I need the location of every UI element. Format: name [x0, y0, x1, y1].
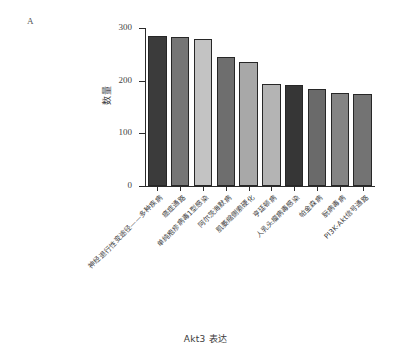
bar: [308, 89, 326, 186]
figure-panel-b: B Akt3 表达: [0, 300, 411, 351]
y-tick-mark: [139, 81, 145, 82]
bar: [331, 93, 349, 186]
bar: [171, 37, 189, 186]
bar: [285, 85, 303, 186]
x-tick-mark: [294, 187, 295, 191]
y-tick-label: 0: [98, 181, 132, 190]
y-tick-label: 200: [98, 76, 132, 85]
figure-panel-a: A 数量 0100200300 神经退行性变途径——多种疾病癌症通路单纯疱疹病毒…: [0, 0, 411, 300]
x-tick-mark: [271, 187, 272, 191]
x-tick-mark: [203, 187, 204, 191]
y-tick-mark: [139, 133, 145, 134]
bar: [262, 84, 280, 186]
panel-a-letter: A: [27, 16, 34, 26]
bar: [239, 62, 257, 186]
y-tick-mark: [139, 28, 145, 29]
x-tick-mark: [226, 187, 227, 191]
y-tick-mark: [139, 186, 145, 187]
x-tick-mark: [249, 187, 250, 191]
x-tick-mark: [340, 187, 341, 191]
y-tick-label: 100: [98, 128, 132, 137]
y-tick-label: 300: [98, 23, 132, 32]
bars-container: [146, 28, 374, 186]
bar: [148, 36, 166, 186]
bar: [217, 57, 235, 186]
panel-b-title: Akt3 表达: [0, 332, 411, 345]
bar: [194, 39, 212, 186]
x-tick-mark: [317, 187, 318, 191]
bar: [353, 94, 371, 186]
x-tick-mark: [180, 187, 181, 191]
x-tick-mark: [157, 187, 158, 191]
x-tick-mark: [363, 187, 364, 191]
